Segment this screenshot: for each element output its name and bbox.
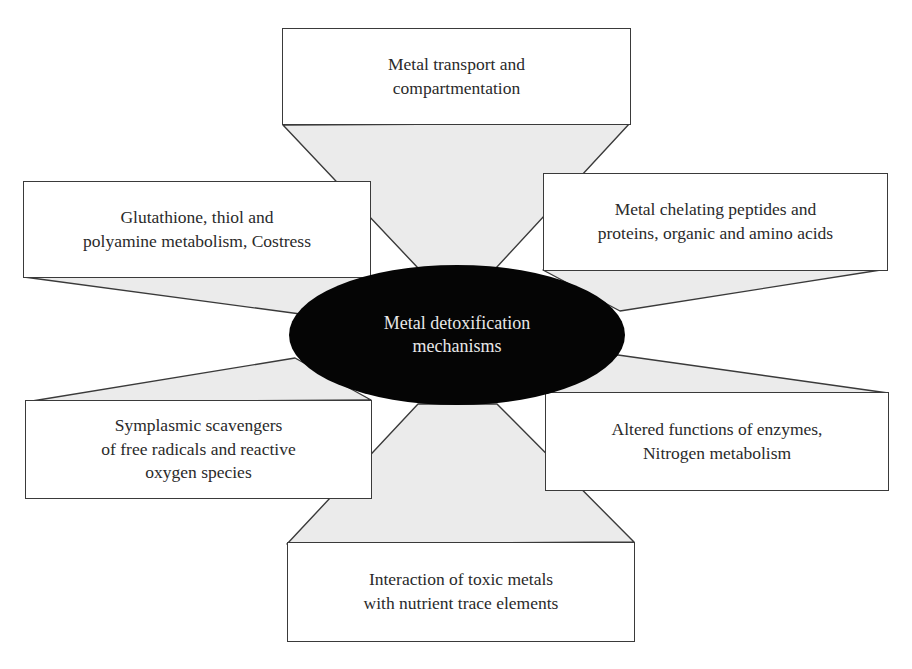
diagram-canvas: Metal transport and compartmentation Glu… xyxy=(0,0,912,669)
node-symplasmic-scavengers: Symplasmic scavengers of free radicals a… xyxy=(25,400,372,499)
node-label: Interaction of toxic metals with nutrien… xyxy=(364,568,559,615)
node-metal-chelating: Metal chelating peptides and proteins, o… xyxy=(543,173,888,271)
node-label: Glutathione, thiol and polyamine metabol… xyxy=(83,206,311,253)
node-altered-enzymes: Altered functions of enzymes, Nitrogen m… xyxy=(545,392,889,491)
node-label: Symplasmic scavengers of free radicals a… xyxy=(101,414,295,485)
node-metal-transport: Metal transport and compartmentation xyxy=(282,28,631,125)
node-label: Metal transport and compartmentation xyxy=(388,53,525,100)
node-glutathione-metabolism: Glutathione, thiol and polyamine metabol… xyxy=(23,181,371,278)
node-toxic-metal-interaction: Interaction of toxic metals with nutrien… xyxy=(287,542,635,642)
node-label: Metal chelating peptides and proteins, o… xyxy=(598,198,833,245)
node-label: Altered functions of enzymes, Nitrogen m… xyxy=(612,418,823,465)
center-label: Metal detoxification mechanisms xyxy=(384,312,530,359)
center-hub: Metal detoxification mechanisms xyxy=(289,265,625,405)
